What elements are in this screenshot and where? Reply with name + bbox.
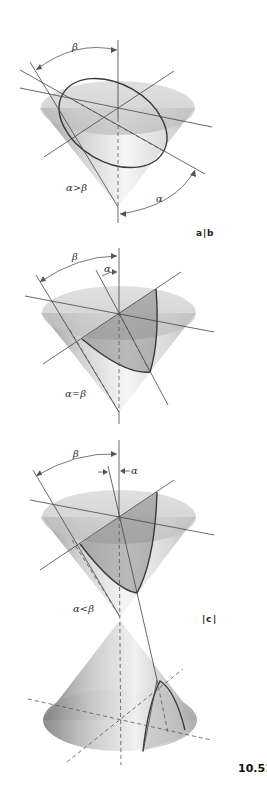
arrowhead [111,253,117,259]
condition-label-a: α>β [66,182,87,193]
panel-label-c-group: | c | [202,614,216,624]
panel-label-sep: | [203,228,206,238]
alpha-label-c: α [131,465,138,476]
arrowhead [36,470,42,476]
panel-label-a: a [196,228,202,238]
panel-c: β α α<β [28,440,214,765]
arrowhead [120,468,125,474]
panel-label-b: b [207,228,214,238]
arrowhead [112,269,117,275]
panel-label-c-left: | [202,614,205,624]
conic-sections-figure: β α α>β a | b β [0,0,267,791]
beta-label-b: β [71,251,78,262]
figure-number: 10.51 [238,762,267,775]
panel-label-c: c [206,614,211,624]
panel-a: β α α>β [20,40,212,223]
arrowhead [111,451,117,457]
arrowhead [36,64,42,70]
arrowhead [103,469,108,475]
beta-label-a: β [71,41,78,52]
arrowhead [111,47,117,53]
alpha-label-b: α [104,263,111,274]
panel-label-c-right: | [213,614,216,624]
alpha-label-a: α [156,193,163,204]
condition-label-b: α=β [65,388,86,399]
condition-label-c: α<β [73,603,94,614]
beta-label-c: β [72,448,79,459]
panel-label-ab: a | b [196,228,214,238]
arrowhead [120,211,126,217]
panel-b: β α α=β [25,248,214,424]
